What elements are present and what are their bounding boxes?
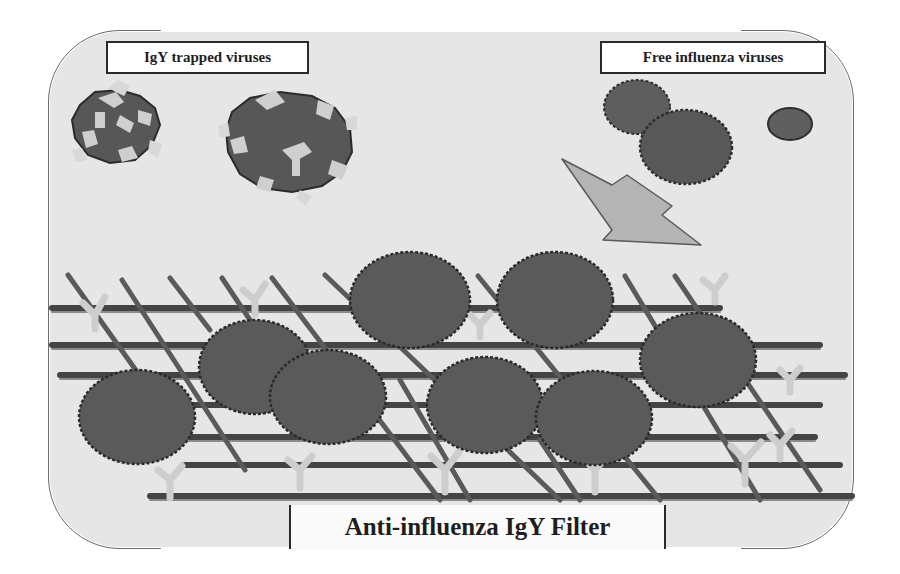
bound-virus-2	[497, 252, 613, 348]
label-free-influenza-viruses: Free influenza viruses	[600, 41, 826, 74]
label-filter-title: Anti-influenza IgY Filter	[289, 505, 666, 549]
bound-virus-8	[536, 371, 652, 465]
bound-virus-4	[640, 313, 756, 407]
trapped-virus-large	[218, 90, 357, 206]
trapped-virus-small	[72, 80, 162, 163]
bound-virus-6	[270, 350, 386, 444]
bound-virus-5	[79, 370, 195, 464]
free-virus-3	[768, 108, 812, 140]
label-igy-trapped-viruses: IgY trapped viruses	[106, 41, 309, 74]
bound-virus-7	[427, 357, 543, 453]
bound-virus-1	[350, 252, 470, 348]
diagram-scene	[0, 0, 900, 574]
free-virus-2	[640, 110, 732, 184]
